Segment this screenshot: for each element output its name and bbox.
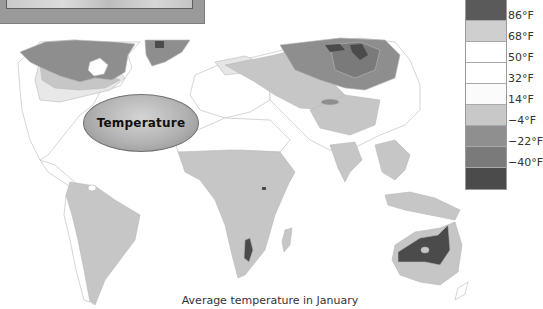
legend-swatch — [466, 126, 506, 147]
legend-label: 32°F — [508, 72, 534, 85]
africa — [178, 150, 295, 278]
inset-photo-frame — [0, 0, 205, 24]
southeast-asia — [375, 140, 410, 180]
inset-photo — [6, 0, 193, 9]
tibet-very-cold — [321, 99, 339, 105]
legend-color-bar — [465, 0, 507, 190]
legend-swatch — [466, 84, 506, 105]
legend-label: 14°F — [508, 93, 534, 106]
legend-label: −4°F — [508, 114, 536, 127]
legend-swatch — [466, 105, 506, 126]
australia-lake — [421, 247, 429, 253]
legend-label: 50°F — [508, 51, 534, 64]
legend-swatch — [466, 42, 506, 63]
temperature-label-ellipse: Temperature — [83, 94, 199, 152]
legend-label: −40°F — [508, 156, 543, 169]
greenland — [145, 40, 190, 66]
indonesia — [385, 192, 460, 220]
legend-label: 68°F — [508, 30, 534, 43]
india — [330, 142, 362, 182]
map-caption: Average temperature in January — [0, 294, 540, 307]
east-africa-hot — [262, 187, 266, 190]
legend-swatch — [466, 0, 506, 21]
legend-swatch — [466, 63, 506, 84]
world-temperature-map — [0, 30, 470, 305]
amazon-lake — [88, 185, 96, 191]
legend-swatch — [466, 21, 506, 42]
madagascar — [282, 228, 292, 252]
greenland-coldest — [155, 41, 164, 48]
legend-swatch — [466, 168, 506, 189]
legend-swatch — [466, 147, 506, 168]
temperature-label: Temperature — [97, 116, 186, 130]
legend-label: 86°F — [508, 9, 534, 22]
temperature-legend: 86°F68°F50°F32°F14°F−4°F−22°F−40°F — [460, 0, 540, 190]
legend-label: −22°F — [508, 135, 543, 148]
